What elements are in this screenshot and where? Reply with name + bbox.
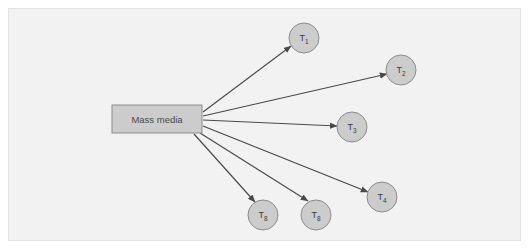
edge-mass-media-to-t8b (200, 133, 308, 201)
node-t8b[interactable]: T8 (301, 200, 331, 230)
edge-mass-media-to-t3 (203, 120, 337, 126)
node-t2-subscript: 2 (402, 70, 406, 77)
node-t8a[interactable]: T8 (248, 200, 278, 230)
figure-canvas: Mass media T1 T2 T3 T4 T8 T8 (0, 0, 529, 249)
edge-mass-media-to-t8a (194, 134, 255, 202)
node-t3-subscript: 3 (353, 127, 357, 134)
node-t4[interactable]: T4 (367, 182, 397, 212)
node-t8a-subscript: 8 (264, 215, 268, 222)
edge-mass-media-to-t1 (203, 46, 291, 112)
node-t8b-subscript: 8 (317, 215, 321, 222)
edge-mass-media-to-t2 (203, 74, 387, 116)
radial-flow-diagram: Mass media T1 T2 T3 T4 T8 T8 (0, 0, 529, 249)
source-node-mass-media[interactable]: Mass media (112, 105, 202, 133)
node-t4-subscript: 4 (383, 197, 387, 204)
source-node-label: Mass media (131, 114, 183, 125)
node-t3[interactable]: T3 (337, 112, 367, 142)
node-t1[interactable]: T1 (289, 23, 319, 53)
node-t2[interactable]: T2 (386, 55, 416, 85)
node-t1-subscript: 1 (305, 38, 309, 45)
